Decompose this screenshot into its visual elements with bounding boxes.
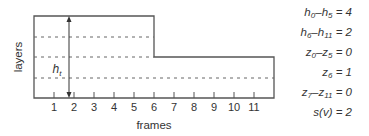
tick-label: 4	[111, 101, 117, 113]
tick-label: 1	[51, 101, 57, 113]
tick-label: 2	[71, 101, 77, 113]
x-axis-label: frames	[136, 119, 171, 131]
equation-list: h0–h5 = 4 h6–h11 = 2 z0–z5 = 0 z6 = 1 z7…	[301, 4, 353, 121]
equation-z0-z5: z0–z5 = 0	[301, 44, 353, 64]
x-axis-ticks	[54, 92, 254, 98]
tick-label: 7	[171, 101, 177, 113]
tick-label: 8	[191, 101, 197, 113]
tick-label: 9	[211, 101, 217, 113]
height-label: ht	[53, 62, 63, 78]
equation-h6-h11: h6–h11 = 2	[301, 24, 353, 44]
y-axis-label: layers	[12, 41, 24, 72]
equation-z7-z11: z7–z11 = 0	[301, 84, 353, 104]
tick-label: 5	[131, 101, 137, 113]
tick-label: 6	[151, 101, 157, 113]
tick-label: 3	[91, 101, 97, 113]
tick-label: 10	[228, 101, 240, 113]
x-axis-tick-labels: 1 2 3 4 5 6 7 8 9 10 11	[51, 101, 260, 113]
equation-h0-h5: h0–h5 = 4	[301, 4, 353, 24]
tick-label: 11	[248, 101, 259, 113]
equation-sv: s(v) = 2	[301, 104, 353, 121]
equation-z6: z6 = 1	[301, 64, 353, 84]
